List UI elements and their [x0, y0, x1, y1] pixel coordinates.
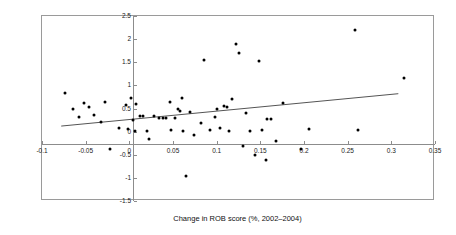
- x-tick: [348, 141, 349, 144]
- y-tick-label: 1: [127, 81, 131, 89]
- data-point: [178, 109, 181, 112]
- data-point: [282, 101, 285, 104]
- x-axis-title: Change in ROB score (%, 2002–2004): [41, 214, 434, 223]
- x-tick: [304, 141, 305, 144]
- data-point: [170, 129, 173, 132]
- x-tick: [435, 141, 436, 144]
- y-tick-label: 2.5: [122, 12, 131, 20]
- data-point: [152, 115, 155, 118]
- data-point: [261, 129, 264, 132]
- data-point: [234, 42, 237, 45]
- data-point: [72, 107, 75, 110]
- data-point: [93, 113, 96, 116]
- data-point: [82, 101, 85, 104]
- data-point: [185, 174, 188, 177]
- data-point: [100, 120, 103, 123]
- data-point: [275, 139, 278, 142]
- data-point: [131, 118, 134, 121]
- x-tick-label: 0.25: [341, 147, 354, 155]
- data-point: [77, 116, 80, 119]
- data-point: [124, 104, 127, 107]
- data-point: [269, 117, 272, 120]
- data-point: [182, 129, 185, 132]
- y-tick-label: -0.5: [120, 151, 131, 159]
- data-point: [248, 129, 251, 132]
- x-tick: [42, 141, 43, 144]
- data-point: [109, 148, 112, 151]
- data-point: [299, 147, 302, 150]
- x-tick: [86, 141, 87, 144]
- x-tick: [173, 141, 174, 144]
- data-point: [63, 91, 66, 94]
- y-tick: [134, 109, 137, 110]
- y-tick: [134, 39, 137, 40]
- y-tick: [134, 155, 137, 156]
- data-point: [231, 98, 234, 101]
- x-tick-label: -0.1: [36, 147, 47, 155]
- y-tick: [134, 16, 137, 17]
- data-point: [130, 97, 133, 100]
- y-tick: [134, 62, 137, 63]
- x-axis-zero-line: [42, 144, 435, 145]
- y-tick-label: -1.5: [120, 197, 131, 205]
- x-tick-label: 0.05: [167, 147, 180, 155]
- x-tick: [217, 141, 218, 144]
- data-point: [403, 77, 406, 80]
- data-point: [168, 101, 171, 104]
- data-point: [264, 159, 267, 162]
- x-tick-label: 0.1: [212, 147, 221, 155]
- data-point: [203, 58, 206, 61]
- y-tick-label: -1: [125, 174, 131, 182]
- data-point: [227, 129, 230, 132]
- data-point: [180, 97, 183, 100]
- data-point: [213, 115, 216, 118]
- data-point: [126, 128, 129, 131]
- data-point: [238, 52, 241, 55]
- data-point: [192, 133, 195, 136]
- x-tick-label: 0.3: [387, 147, 396, 155]
- x-tick: [129, 141, 130, 144]
- data-point: [199, 121, 202, 124]
- y-tick: [134, 201, 137, 202]
- plot-area: -0.1-0.0500.050.10.150.20.250.30.35 2.52…: [41, 15, 434, 200]
- y-tick-label: 2: [127, 35, 131, 43]
- x-tick: [391, 141, 392, 144]
- data-point: [254, 153, 257, 156]
- data-point: [142, 115, 145, 118]
- data-point: [88, 106, 91, 109]
- data-point: [117, 126, 120, 129]
- data-point: [215, 107, 218, 110]
- scatter-plot-screenshot: Change in market capital (%, Oct 2002–Au…: [0, 0, 456, 235]
- x-tick-label: -0.05: [78, 147, 93, 155]
- data-point: [208, 129, 211, 132]
- data-point: [353, 28, 356, 31]
- data-point: [257, 60, 260, 63]
- trend-line: [42, 16, 435, 201]
- x-tick: [260, 141, 261, 144]
- data-point: [189, 111, 192, 114]
- y-tick: [134, 85, 137, 86]
- data-point: [145, 129, 148, 132]
- data-point: [173, 116, 176, 119]
- data-point: [226, 105, 229, 108]
- data-point: [219, 127, 222, 130]
- data-point: [133, 129, 136, 132]
- data-point: [357, 129, 360, 132]
- data-point: [241, 144, 244, 147]
- data-point: [103, 101, 106, 104]
- y-tick-label: 1.5: [122, 58, 131, 66]
- x-tick-label: 0.35: [429, 147, 442, 155]
- y-tick: [134, 178, 137, 179]
- data-point: [135, 102, 138, 105]
- data-point: [308, 127, 311, 130]
- data-point: [165, 117, 168, 120]
- data-point: [245, 112, 248, 115]
- data-point: [147, 138, 150, 141]
